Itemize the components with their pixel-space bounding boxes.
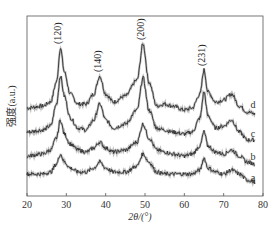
series-label-c: c <box>251 128 256 139</box>
y-axis-label: 强度(a.u.) <box>5 85 18 126</box>
x-tick-label: 80 <box>258 199 268 210</box>
peak-labels: (120)(140)(200)(231) <box>52 18 208 72</box>
x-tick-label: 30 <box>61 199 71 210</box>
x-axis-ticks: 20304050607080 <box>22 193 268 210</box>
x-axis-label: 2θ/(°) <box>128 211 152 223</box>
curve-a-shadow <box>27 153 255 184</box>
x-tick-label: 50 <box>140 199 150 210</box>
x-tick-label: 60 <box>179 199 189 210</box>
x-tick-label: 70 <box>219 199 229 210</box>
series-label-a: a <box>251 172 256 183</box>
series-label-b: b <box>251 151 256 162</box>
peak-label: (140) <box>92 50 104 72</box>
xrd-chart: 20304050607080 (120)(140)(200)(231) dcba… <box>0 0 276 232</box>
x-tick-label: 20 <box>22 199 32 210</box>
peak-label: (200) <box>135 18 147 40</box>
peak-label: (120) <box>52 22 64 44</box>
series-label-d: d <box>251 99 256 110</box>
curves <box>27 44 255 184</box>
x-tick-label: 40 <box>101 199 111 210</box>
peak-label: (231) <box>196 44 208 66</box>
